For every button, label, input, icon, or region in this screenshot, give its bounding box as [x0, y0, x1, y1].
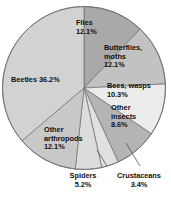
pie-chart-figure: Flies 12.1% Butterflies, moths 12.1% Bee… [0, 0, 171, 198]
slice-label-other-insects: Other insects 8.6% [111, 104, 136, 130]
slice-label-flies: Flies 12.1% [76, 19, 97, 36]
slice-label-crustaceans: Crustaceans 3.4% [110, 172, 168, 189]
slice-label-butterflies-moths: Butterflies, moths 12.1% [104, 44, 142, 70]
slice-label-bees-wasps: Bees, wasps 10.3% [107, 82, 151, 99]
slice-label-spiders: Spiders 5.2% [60, 172, 106, 189]
slice-label-other-arthropods: Other arthropods 12.1% [44, 126, 83, 152]
slice-label-beetles: Beetles 36.2% [11, 76, 60, 85]
